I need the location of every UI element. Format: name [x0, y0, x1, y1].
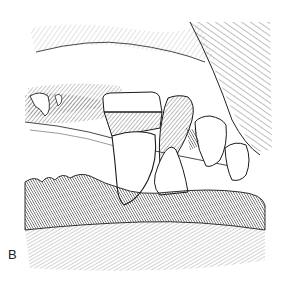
dental-illustration [0, 0, 285, 287]
premolars [186, 116, 249, 180]
panel-label: B [8, 247, 17, 262]
lower-lip-fur [25, 222, 265, 271]
